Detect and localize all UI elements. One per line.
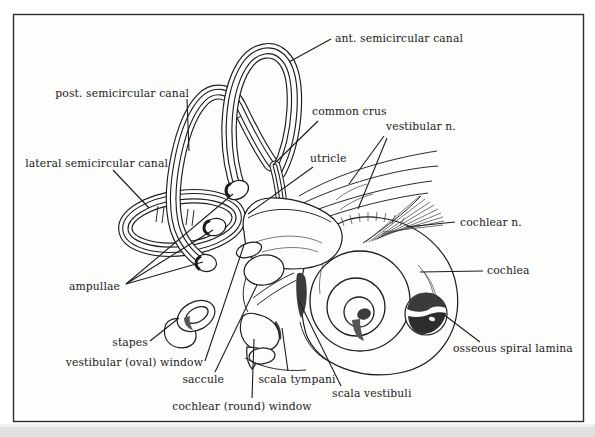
label-vestibular-n: vestibular n. xyxy=(385,120,456,133)
label-ampullae: ampullae xyxy=(69,280,120,293)
label-stapes: stapes xyxy=(112,336,148,349)
label-saccule: saccule xyxy=(182,373,224,386)
inner-ear-diagram-svg: ant. semicircular canal post. semicircul… xyxy=(0,0,595,437)
label-scala-vestibuli: scala vestibuli xyxy=(332,387,412,400)
scan-shadow xyxy=(0,424,595,437)
label-utricle: utricle xyxy=(310,152,347,165)
inner-ear-figure: ant. semicircular canal post. semicircul… xyxy=(0,0,595,437)
label-cochlear-round-window: cochlear (round) window xyxy=(172,400,312,413)
label-osseous-spiral-lamina: osseous spiral lamina xyxy=(453,342,573,355)
label-cochlea: cochlea xyxy=(487,264,530,277)
label-cochlear-n: cochlear n. xyxy=(460,216,522,229)
label-ant-semicircular-canal: ant. semicircular canal xyxy=(335,32,463,45)
label-post-semicircular-canal: post. semicircular canal xyxy=(55,87,189,100)
label-scala-tympani: scala tympani xyxy=(258,373,336,386)
label-vestibular-oval-window: vestibular (oval) window xyxy=(65,356,204,369)
label-lateral-semicircular-canal: lateral semicircular canal xyxy=(25,157,168,170)
label-common-crus: common crus xyxy=(312,105,387,118)
osseous-spiral-lamina-section xyxy=(405,293,447,335)
